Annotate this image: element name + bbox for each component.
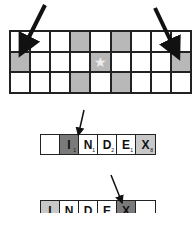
letter-tile: E1: [117, 135, 136, 154]
grid-cell: [10, 52, 30, 73]
grid-cell: [90, 31, 110, 52]
tile-letter: N: [84, 138, 93, 152]
word-row-index-points: I1N1D2E1X8: [40, 134, 156, 155]
grid-cell: [171, 72, 191, 93]
tile-points: 1: [73, 147, 76, 153]
tile-letter: I: [48, 204, 51, 214]
grid-cell: [70, 52, 90, 73]
letter-tile: X8: [136, 135, 155, 154]
grid-cell: [131, 52, 151, 73]
grid-cell: [111, 72, 131, 93]
grid-cell: [171, 31, 191, 52]
letter-tile: I: [41, 201, 60, 213]
grid-cell: [10, 31, 30, 52]
grid-cell: [50, 31, 70, 52]
grid-cell: [70, 72, 90, 93]
grid-cell: [171, 52, 191, 73]
tile-letter: D: [103, 138, 112, 152]
grid-cell: [50, 72, 70, 93]
grid-cell: [151, 52, 171, 73]
letter-tile: D: [79, 201, 98, 213]
tile-letter: D: [84, 204, 93, 214]
board-grid: ★: [9, 30, 192, 94]
grid-cell: [151, 31, 171, 52]
tile-letter: E: [103, 204, 111, 214]
grid-cell: [30, 72, 50, 93]
tile-points: 1: [92, 147, 95, 153]
grid-cell: ★: [90, 52, 110, 73]
tile-letter: E: [122, 138, 130, 152]
letter-tile: X: [117, 201, 136, 213]
tile-points: 2: [111, 147, 114, 153]
grid-cell: [30, 31, 50, 52]
grid-cell: [90, 72, 110, 93]
grid-cell: [151, 72, 171, 93]
star-icon: ★: [94, 55, 107, 69]
letter-tile: [41, 135, 60, 154]
grid-cell: [50, 52, 70, 73]
grid-cell: [30, 52, 50, 73]
grid-cell: [111, 31, 131, 52]
tile-letter: N: [65, 204, 74, 214]
grid-cell: [111, 52, 131, 73]
grid-cell: [10, 72, 30, 93]
grid-cell: [70, 31, 90, 52]
letter-tile: [136, 201, 155, 213]
tile-points: 8: [150, 147, 153, 153]
tile-letter: X: [122, 204, 130, 214]
arrow-middle-icon: [79, 110, 84, 132]
letter-tile: N1: [79, 135, 98, 154]
arrow-bottom-icon: [111, 175, 121, 200]
tile-letter: I: [67, 138, 70, 152]
letter-tile: D2: [98, 135, 117, 154]
grid-cell: [131, 72, 151, 93]
grid-cell: [131, 31, 151, 52]
tile-letter: X: [141, 138, 149, 152]
letter-tile: N: [60, 201, 79, 213]
word-row-index-plain: INDEX: [40, 200, 156, 213]
tile-points: 1: [130, 147, 133, 153]
letter-tile: E: [98, 201, 117, 213]
letter-tile: I1: [60, 135, 79, 154]
